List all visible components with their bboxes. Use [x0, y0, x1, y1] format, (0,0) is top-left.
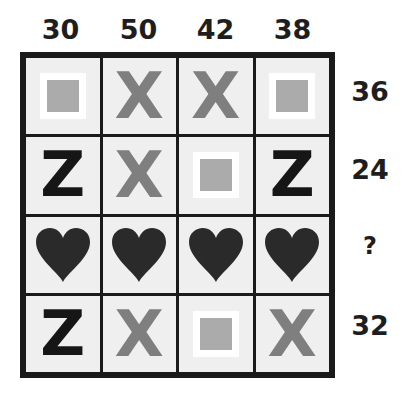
column-sum-2: 50	[100, 14, 177, 45]
heart-icon	[263, 226, 321, 284]
z-symbol: Z	[40, 303, 85, 365]
grid-cell: Z	[26, 137, 100, 213]
grid-cell: X	[103, 137, 177, 213]
row-sum-4: 32	[340, 310, 400, 341]
square-icon	[269, 73, 315, 119]
x-symbol: X	[268, 302, 317, 366]
row-sum-1: 36	[340, 76, 400, 107]
row-sum-3-unknown: ?	[340, 232, 400, 260]
x-symbol: X	[115, 302, 164, 366]
square-icon	[193, 152, 239, 198]
heart-icon	[110, 226, 168, 284]
z-symbol: Z	[40, 144, 85, 206]
grid-cell: X	[103, 58, 177, 134]
grid-cell: Z	[256, 137, 330, 213]
puzzle-grid: XXZXZZXX	[20, 52, 335, 378]
grid-cell	[26, 58, 100, 134]
grid-cell	[179, 217, 253, 293]
grid-cell	[179, 296, 253, 372]
column-sum-1: 30	[22, 14, 99, 45]
square-icon	[193, 311, 239, 357]
grid-cell	[256, 217, 330, 293]
column-sum-3: 42	[177, 14, 254, 45]
x-symbol: X	[115, 143, 164, 207]
grid-cell	[103, 217, 177, 293]
grid-cell: Z	[26, 296, 100, 372]
square-icon	[40, 73, 86, 119]
grid-cell: X	[179, 58, 253, 134]
grid-cell	[256, 58, 330, 134]
row-sum-2: 24	[340, 154, 400, 185]
heart-icon	[34, 226, 92, 284]
heart-icon	[187, 226, 245, 284]
grid-cell	[179, 137, 253, 213]
x-symbol: X	[115, 64, 164, 128]
x-symbol: X	[191, 64, 240, 128]
z-symbol: Z	[270, 144, 315, 206]
grid-cell	[26, 217, 100, 293]
grid-cell: X	[103, 296, 177, 372]
column-sum-4: 38	[254, 14, 331, 45]
grid-cell: X	[256, 296, 330, 372]
